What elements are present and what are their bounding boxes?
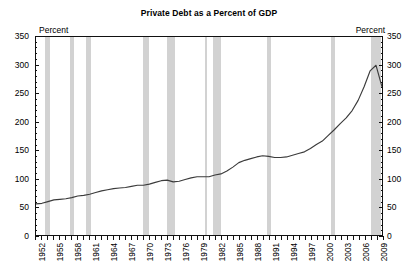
- x-tick: [359, 236, 360, 240]
- y-tick-major: [379, 65, 383, 66]
- x-tick: [167, 236, 168, 240]
- x-tick: [209, 236, 210, 240]
- y-tick-label-right: 0: [387, 232, 418, 241]
- y-axis-unit-label-right: Percent: [356, 25, 385, 35]
- y-tick-minor: [35, 190, 37, 191]
- y-tick-minor: [381, 139, 383, 140]
- y-tick-major: [35, 93, 39, 94]
- y-tick-minor: [35, 139, 37, 140]
- y-tick-minor: [35, 105, 37, 106]
- y-tick-minor: [35, 202, 37, 203]
- y-tick-minor: [381, 127, 383, 128]
- x-tick: [107, 236, 108, 240]
- series-line-private-debt: [36, 65, 382, 204]
- y-tick-minor: [381, 105, 383, 106]
- x-tick: [179, 236, 180, 240]
- y-tick-major: [379, 36, 383, 37]
- y-tick-minor: [381, 213, 383, 214]
- x-tick: [113, 236, 114, 240]
- y-tick-label-right: 250: [387, 89, 418, 98]
- y-tick-minor: [35, 173, 37, 174]
- y-tick-minor: [381, 47, 383, 48]
- y-tick-minor: [35, 42, 37, 43]
- y-tick-minor: [35, 116, 37, 117]
- x-tick: [263, 236, 264, 240]
- x-tick-label: 2009: [381, 243, 389, 261]
- x-tick: [59, 236, 60, 240]
- x-tick-label: 1958: [75, 243, 83, 261]
- x-tick: [275, 236, 276, 240]
- y-tick-minor: [381, 185, 383, 186]
- y-tick-label-right: 150: [387, 146, 418, 155]
- y-axis-unit-label-left: Percent: [39, 25, 68, 35]
- x-tick: [365, 236, 366, 240]
- y-tick-minor: [35, 59, 37, 60]
- y-tick-minor: [35, 70, 37, 71]
- x-tick: [317, 236, 318, 240]
- x-tick: [269, 236, 270, 240]
- y-tick-minor: [35, 76, 37, 77]
- y-tick-minor: [381, 99, 383, 100]
- x-tick: [83, 236, 84, 240]
- x-tick: [347, 236, 348, 240]
- y-tick-label-right: 350: [387, 32, 418, 41]
- x-tick-label: 1985: [237, 243, 245, 261]
- x-tick: [305, 236, 306, 240]
- x-tick-label: 1952: [39, 243, 47, 261]
- x-tick: [383, 236, 384, 240]
- y-tick-minor: [35, 82, 37, 83]
- x-tick: [53, 236, 54, 240]
- y-tick-minor: [35, 87, 37, 88]
- x-tick: [47, 236, 48, 240]
- x-tick: [119, 236, 120, 240]
- y-tick-minor: [381, 76, 383, 77]
- y-tick-label-left: 0: [0, 232, 29, 241]
- x-tick: [377, 236, 378, 240]
- y-tick-minor: [35, 127, 37, 128]
- x-tick: [293, 236, 294, 240]
- y-tick-major: [35, 179, 39, 180]
- x-tick: [371, 236, 372, 240]
- x-tick-label: 1976: [183, 243, 191, 261]
- y-tick-minor: [381, 202, 383, 203]
- y-tick-major: [379, 179, 383, 180]
- y-tick-minor: [35, 156, 37, 157]
- x-tick: [329, 236, 330, 240]
- y-tick-minor: [381, 190, 383, 191]
- y-tick-label-left: 100: [0, 175, 29, 184]
- y-tick-minor: [35, 110, 37, 111]
- x-tick: [125, 236, 126, 240]
- x-tick: [35, 236, 36, 240]
- x-tick: [281, 236, 282, 240]
- x-tick: [323, 236, 324, 240]
- x-tick-label: 1982: [219, 243, 227, 261]
- x-tick: [245, 236, 246, 240]
- x-tick: [191, 236, 192, 240]
- y-tick-minor: [381, 230, 383, 231]
- y-tick-minor: [35, 225, 37, 226]
- y-tick-major: [379, 122, 383, 123]
- x-tick: [353, 236, 354, 240]
- series-layer: [36, 37, 382, 235]
- x-tick: [233, 236, 234, 240]
- x-tick-label: 1961: [93, 243, 101, 261]
- x-tick: [335, 236, 336, 240]
- y-tick-minor: [381, 219, 383, 220]
- y-tick-minor: [381, 133, 383, 134]
- x-tick-label: 1997: [309, 243, 317, 261]
- y-tick-minor: [35, 196, 37, 197]
- y-tick-minor: [35, 99, 37, 100]
- chart-title: Private Debt as a Percent of GDP: [0, 8, 418, 18]
- y-tick-label-right: 50: [387, 203, 418, 212]
- x-tick: [215, 236, 216, 240]
- x-tick: [89, 236, 90, 240]
- x-tick-label: 2003: [345, 243, 353, 261]
- x-tick: [41, 236, 42, 240]
- x-tick: [221, 236, 222, 240]
- x-tick-label: 1955: [57, 243, 65, 261]
- x-tick: [311, 236, 312, 240]
- x-tick-label: 2000: [327, 243, 335, 261]
- x-tick: [203, 236, 204, 240]
- y-tick-minor: [381, 82, 383, 83]
- y-tick-minor: [35, 185, 37, 186]
